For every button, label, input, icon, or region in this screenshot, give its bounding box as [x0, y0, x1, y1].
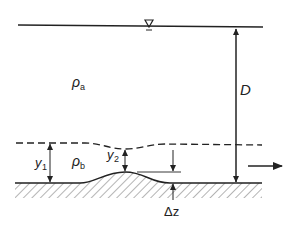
svg-text:D: D [240, 81, 251, 98]
upper-density-label: ρ a [71, 74, 85, 92]
svg-text:b: b [80, 161, 85, 171]
upstream-depth-dimension: y 1 [34, 144, 50, 182]
svg-text:ρ: ρ [71, 153, 80, 169]
stratified-flow-diagram: ρ a D y 1 ρ b y 2 Δz [0, 0, 297, 232]
svg-text:2: 2 [114, 154, 119, 164]
density-interface [16, 143, 262, 149]
total-depth-dimension: D [236, 29, 251, 182]
svg-text:Δz: Δz [164, 204, 179, 219]
svg-text:1: 1 [42, 162, 47, 172]
channel-bed [15, 170, 263, 200]
crest-depth-dimension: y 2 [106, 147, 125, 171]
lower-density-label: ρ b [71, 153, 85, 171]
svg-text:a: a [80, 82, 85, 92]
svg-text:ρ: ρ [71, 74, 80, 90]
free-surface [18, 20, 263, 30]
